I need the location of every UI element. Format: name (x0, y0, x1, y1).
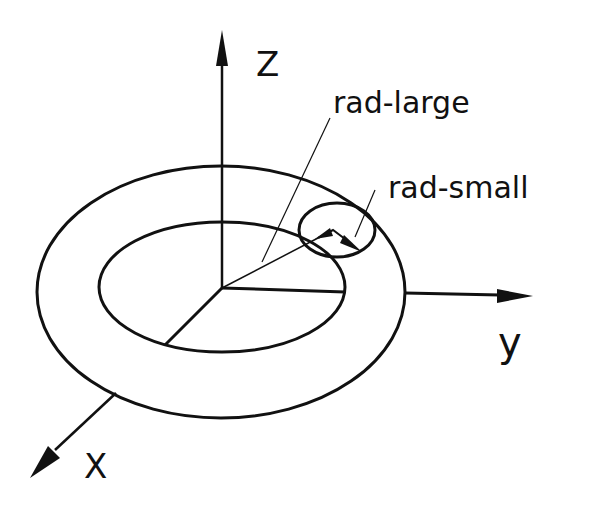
rad-small-arrow-right-icon (340, 235, 362, 252)
rad-small-arrow-left-icon (315, 228, 333, 239)
z-axis (216, 30, 228, 288)
x-axis-label: X (84, 446, 107, 486)
z-axis-label: Z (256, 44, 279, 84)
rad-large-label: rad-large (333, 85, 470, 120)
x-arrowhead-icon (30, 446, 60, 478)
y-axis (222, 288, 533, 303)
rad-small-label: rad-small (388, 170, 529, 205)
z-arrowhead-icon (216, 30, 228, 66)
rad-large-leader (262, 118, 330, 262)
y-arrowhead-icon (497, 289, 533, 303)
tube-cross-section-circle (299, 203, 375, 257)
y-axis-label: y (498, 319, 522, 365)
rad-small-leader (355, 190, 375, 237)
torus-diagram: Z rad-large rad-small y X (0, 0, 591, 514)
x-axis (30, 288, 222, 478)
